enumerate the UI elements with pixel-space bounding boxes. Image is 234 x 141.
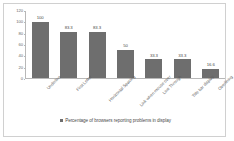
y-axis-tick-label: 20 (19, 66, 23, 70)
bar-series: 10083.383.35033.333.316.6 (26, 11, 225, 78)
legend-label: Percentage of browsers reporting problem… (65, 118, 171, 123)
bar (89, 32, 106, 79)
y-axis-tick-mark (24, 45, 26, 46)
bar-slot: 83.3 (54, 11, 82, 78)
y-axis-tick-mark (24, 22, 26, 23)
y-axis-tick-mark (24, 79, 26, 80)
y-axis-tick-mark (24, 34, 26, 35)
y-axis-tick-mark (24, 11, 26, 12)
bar (60, 32, 77, 79)
y-axis-tick-mark (24, 68, 26, 69)
plot-area: 020406080100120 10083.383.35033.333.316.… (25, 11, 225, 79)
y-axis-tick-label: 100 (16, 20, 23, 24)
chart-legend: Percentage of browsers reporting problem… (4, 118, 227, 123)
chart-container: 020406080100120 10083.383.35033.333.316.… (3, 3, 226, 137)
bar-value-label: 33.3 (178, 54, 186, 58)
y-axis-tick-label: 40 (19, 54, 23, 58)
bar-slot: 33.3 (140, 11, 168, 78)
bar-value-label: 83.3 (65, 26, 73, 30)
y-axis-tick-label: 80 (19, 32, 23, 36)
bar-slot: 16.6 (197, 11, 225, 78)
bar-slot: 100 (26, 11, 54, 78)
x-axis-category-labels: UnderlineFirst LetterHorizontal SpacingL… (26, 80, 225, 112)
bar-value-label: 83.3 (93, 26, 101, 30)
bar (145, 59, 162, 78)
bar (32, 22, 49, 78)
bar-slot: 50 (111, 11, 139, 78)
x-axis-category-label: Horizontal Spacing (108, 75, 136, 103)
bar-slot: 83.3 (83, 11, 111, 78)
bar-value-label: 100 (37, 16, 44, 20)
y-axis-tick-mark (24, 56, 26, 57)
y-axis-tick-label: 60 (19, 43, 23, 47)
bar-value-label: 50 (123, 44, 128, 48)
legend-square-marker-icon (60, 119, 63, 122)
bar-value-label: 16.6 (207, 63, 215, 67)
bar-slot: 33.3 (168, 11, 196, 78)
y-axis-tick-label: 120 (16, 9, 23, 13)
bar-value-label: 33.3 (150, 54, 158, 58)
